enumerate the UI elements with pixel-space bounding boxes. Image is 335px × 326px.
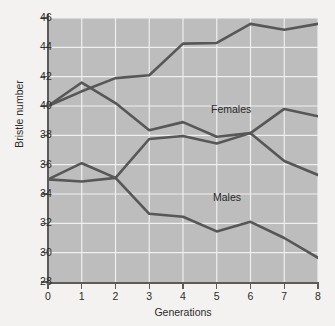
x-tick-label: 3 bbox=[139, 290, 159, 302]
y-tick-label: 38 bbox=[24, 128, 52, 140]
x-tick-label: 1 bbox=[72, 290, 92, 302]
x-tick-mark bbox=[317, 283, 318, 289]
x-axis-label: Generations bbox=[48, 306, 318, 318]
x-tick-label: 4 bbox=[173, 290, 193, 302]
x-tick-mark bbox=[149, 283, 150, 289]
x-tick-label: 6 bbox=[241, 290, 261, 302]
x-tick-mark bbox=[216, 283, 217, 289]
y-tick-label: 40 bbox=[24, 99, 52, 111]
series-line bbox=[48, 24, 318, 106]
series-annotation-females: Females bbox=[211, 103, 251, 115]
x-tick-mark bbox=[81, 283, 82, 289]
series-lines bbox=[48, 18, 318, 282]
y-tick-label: 44 bbox=[24, 40, 52, 52]
y-tick-label: 36 bbox=[24, 158, 52, 170]
x-tick-label: 2 bbox=[106, 290, 126, 302]
y-tick-label: 42 bbox=[24, 70, 52, 82]
y-tick-label: 46 bbox=[24, 11, 52, 23]
series-annotation-males: Males bbox=[213, 191, 241, 203]
bristle-number-line-chart: Females Males 28303234363840424446 01234… bbox=[0, 0, 335, 326]
series-line bbox=[48, 83, 318, 175]
x-tick-mark bbox=[284, 283, 285, 289]
x-tick-mark bbox=[47, 283, 48, 289]
y-tick-label: 34 bbox=[24, 187, 52, 199]
x-tick-mark bbox=[115, 283, 116, 289]
y-axis-label: Bristle number bbox=[13, 59, 25, 169]
x-tick-label: 8 bbox=[308, 290, 328, 302]
x-tick-label: 7 bbox=[274, 290, 294, 302]
x-tick-mark bbox=[182, 283, 183, 289]
series-line bbox=[48, 163, 318, 258]
y-tick-label: 32 bbox=[24, 216, 52, 228]
x-tick-label: 0 bbox=[38, 290, 58, 302]
x-tick-mark bbox=[250, 283, 251, 289]
y-tick-label: 30 bbox=[24, 246, 52, 258]
series-line bbox=[48, 109, 318, 182]
x-tick-label: 5 bbox=[207, 290, 227, 302]
plot-area: Females Males bbox=[48, 18, 318, 282]
